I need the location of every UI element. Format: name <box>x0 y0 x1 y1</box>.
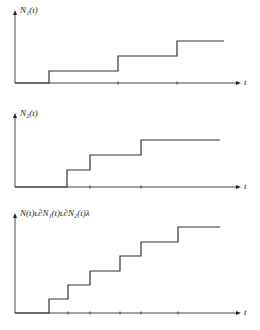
step-function-2 <box>15 140 220 187</box>
plot1-xlabel: t <box>244 77 247 87</box>
x-axis-arrow-icon <box>236 81 241 85</box>
step-function-1 <box>15 41 224 83</box>
counting-process-diagram <box>0 0 260 330</box>
plot3-xlabel: t <box>244 307 247 317</box>
y-axis-arrow-icon <box>13 213 17 218</box>
x-axis-arrow-icon <box>236 311 241 315</box>
y-axis-arrow-icon <box>13 113 17 118</box>
plot2-xlabel: t <box>244 181 247 191</box>
plot3-ylabel: N(t)ʟ∂N₁(t)ʟ∂N₂(t)λ <box>20 208 90 218</box>
x-axis-arrow-icon <box>236 185 241 189</box>
plot2-ylabel: N₂(t) <box>20 108 38 118</box>
plot1-ylabel: N₁(t) <box>20 5 38 15</box>
y-axis-arrow-icon <box>13 10 17 15</box>
step-function-3 <box>15 227 220 313</box>
